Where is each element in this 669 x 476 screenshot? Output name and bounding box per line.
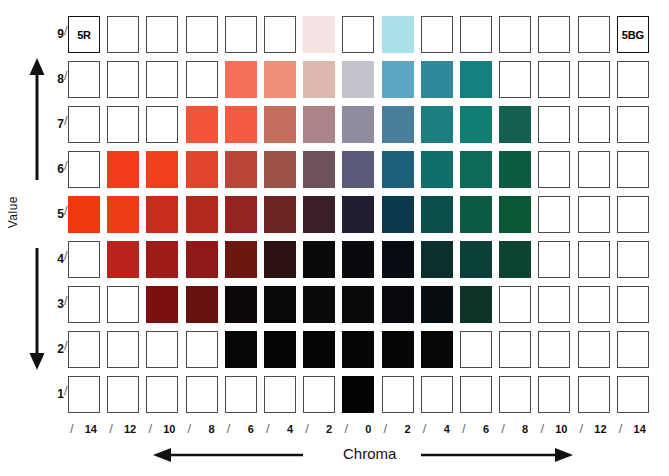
swatch-v9-c10-5BG bbox=[538, 16, 570, 53]
swatch-v9-c14-5R: 5R bbox=[68, 16, 100, 53]
swatch-v6-c14-5R bbox=[68, 151, 100, 188]
swatch-v4-c0-N bbox=[342, 241, 374, 278]
swatch-v3-c6-5BG bbox=[460, 286, 492, 323]
swatch-v6-c6-5R bbox=[225, 151, 257, 188]
swatch-v7-c2-5BG bbox=[382, 106, 414, 143]
chroma-tick-14-14: 14 bbox=[617, 420, 649, 438]
swatch-v6-c10-5R bbox=[146, 151, 178, 188]
swatch-v4-c8-5R bbox=[186, 241, 218, 278]
value-tick-8: 8 bbox=[42, 71, 64, 87]
swatch-v3-c12-5BG bbox=[578, 286, 610, 323]
swatch-v6-c12-5R bbox=[107, 151, 139, 188]
chroma-tick-1-12: 12 bbox=[107, 420, 139, 438]
swatch-v7-c4-5R bbox=[264, 106, 296, 143]
swatch-row-value-3 bbox=[68, 286, 656, 324]
swatch-v4-c12-5R bbox=[107, 241, 139, 278]
swatch-v9-c2-5BG bbox=[382, 16, 414, 53]
swatch-v3-c2-5BG bbox=[382, 286, 414, 323]
swatch-v7-c6-5BG bbox=[460, 106, 492, 143]
swatch-v9-c12-5BG bbox=[578, 16, 610, 53]
swatch-v1-c6-5R bbox=[225, 376, 257, 413]
swatch-v1-c12-5BG bbox=[578, 376, 610, 413]
swatch-v5-c6-5BG bbox=[460, 196, 492, 233]
swatch-v2-c4-5R bbox=[264, 331, 296, 368]
swatch-v4-c8-5BG bbox=[499, 241, 531, 278]
swatch-v8-c6-5R bbox=[225, 61, 257, 98]
swatch-v7-c14-5BG bbox=[617, 106, 649, 143]
chroma-tick-13-12: 12 bbox=[578, 420, 610, 438]
swatch-row-value-6 bbox=[68, 151, 656, 189]
swatch-v1-c0-N bbox=[342, 376, 374, 413]
swatch-v8-c0-N bbox=[342, 61, 374, 98]
swatch-v4-c2-5BG bbox=[382, 241, 414, 278]
swatch-v3-c10-5R bbox=[146, 286, 178, 323]
swatch-v1-c4-5BG bbox=[421, 376, 453, 413]
swatch-v3-c14-5BG bbox=[617, 286, 649, 323]
swatch-v3-c12-5R bbox=[107, 286, 139, 323]
swatch-v7-c2-5R bbox=[303, 106, 335, 143]
swatch-v1-c10-5BG bbox=[538, 376, 570, 413]
swatch-row-value-7 bbox=[68, 106, 656, 144]
value-tick-2: 2 bbox=[42, 341, 64, 357]
swatch-v6-c2-5BG bbox=[382, 151, 414, 188]
swatch-v8-c14-5BG bbox=[617, 61, 649, 98]
value-tick-9: 9 bbox=[42, 26, 64, 42]
swatch-v1-c8-5BG bbox=[499, 376, 531, 413]
swatch-v7-c0-N bbox=[342, 106, 374, 143]
chroma-tick-0-14: 14 bbox=[68, 420, 100, 438]
swatch-v6-c0-N bbox=[342, 151, 374, 188]
swatch-v5-c0-N bbox=[342, 196, 374, 233]
swatch-v5-c14-5R bbox=[68, 196, 100, 233]
swatch-v7-c12-5BG bbox=[578, 106, 610, 143]
swatch-v1-c2-5BG bbox=[382, 376, 414, 413]
swatch-v2-c4-5BG bbox=[421, 331, 453, 368]
swatch-v7-c4-5BG bbox=[421, 106, 453, 143]
swatch-v4-c14-5BG bbox=[617, 241, 649, 278]
swatch-v1-c10-5R bbox=[146, 376, 178, 413]
swatch-v5-c8-5R bbox=[186, 196, 218, 233]
chroma-axis-title: Chroma bbox=[336, 444, 403, 464]
chroma-tick-2-10: 10 bbox=[146, 420, 178, 438]
swatch-v5-c2-5BG bbox=[382, 196, 414, 233]
swatch-v6-c2-5R bbox=[303, 151, 335, 188]
swatch-v2-c8-5BG bbox=[499, 331, 531, 368]
swatch-v9-c2-5R bbox=[303, 16, 335, 53]
swatch-v3-c10-5BG bbox=[538, 286, 570, 323]
swatch-v9-c6-5R bbox=[225, 16, 257, 53]
swatch-v2-c14-5BG bbox=[617, 331, 649, 368]
swatch-v5-c12-5BG bbox=[578, 196, 610, 233]
swatch-v8-c8-5R bbox=[186, 61, 218, 98]
swatch-v7-c10-5R bbox=[146, 106, 178, 143]
value-tick-4: 4 bbox=[42, 251, 64, 267]
swatch-v3-c6-5R bbox=[225, 286, 257, 323]
swatch-v5-c4-5BG bbox=[421, 196, 453, 233]
swatch-v2-c12-5R bbox=[107, 331, 139, 368]
swatch-v1-c14-5BG bbox=[617, 376, 649, 413]
swatch-v3-c8-5BG bbox=[499, 286, 531, 323]
swatch-row-value-2 bbox=[68, 331, 656, 369]
munsell-color-chart: Value 9 / 8 / 7 / 6 / 5 / 4 / 3 / 2 / 1 … bbox=[0, 0, 669, 476]
swatch-v8-c4-5R bbox=[264, 61, 296, 98]
swatch-v4-c6-5BG bbox=[460, 241, 492, 278]
swatch-v7-c12-5R bbox=[107, 106, 139, 143]
swatch-v9-c6-5BG bbox=[460, 16, 492, 53]
swatch-v9-c10-5R bbox=[146, 16, 178, 53]
swatch-v3-c4-5R bbox=[264, 286, 296, 323]
value-axis-title: Value bbox=[6, 196, 20, 228]
value-tick-1: 1 bbox=[42, 386, 64, 402]
swatch-v9-c8-5BG bbox=[499, 16, 531, 53]
value-tick-3: 3 bbox=[42, 296, 64, 312]
swatch-v2-c10-5R bbox=[146, 331, 178, 368]
swatch-v2-c8-5R bbox=[186, 331, 218, 368]
swatch-v5-c12-5R bbox=[107, 196, 139, 233]
chroma-tick-9-4: 4 bbox=[421, 420, 453, 438]
swatch-v4-c14-5R bbox=[68, 241, 100, 278]
swatch-v3-c14-5R bbox=[68, 286, 100, 323]
hue-label-5bg: 5BG bbox=[618, 17, 648, 52]
value-tick-6: 6 bbox=[42, 161, 64, 177]
swatch-v8-c12-5R bbox=[107, 61, 139, 98]
swatch-v7-c8-5R bbox=[186, 106, 218, 143]
swatch-v6-c6-5BG bbox=[460, 151, 492, 188]
swatch-v1-c2-5R bbox=[303, 376, 335, 413]
swatch-v7-c14-5R bbox=[68, 106, 100, 143]
